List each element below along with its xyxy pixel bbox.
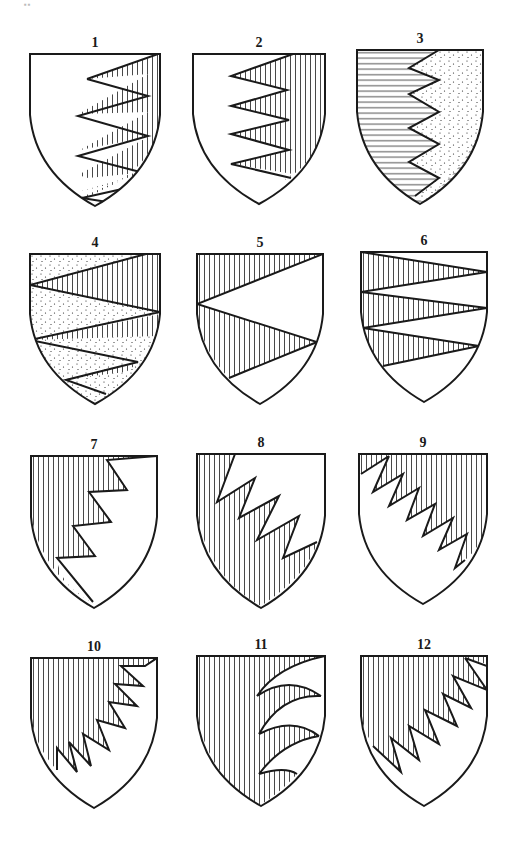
shield-11 <box>195 654 327 808</box>
shield-number-5: 5 <box>185 236 335 250</box>
shield-number-9: 9 <box>348 436 498 450</box>
shields-plate: 123456789101112 <box>0 0 514 846</box>
shield-number-8: 8 <box>186 436 336 450</box>
shield-number-10: 10 <box>19 640 169 654</box>
shield-number-2: 2 <box>184 36 334 50</box>
shield-number-3: 3 <box>345 32 495 46</box>
shield-6 <box>359 250 489 404</box>
shield-number-12: 12 <box>349 638 499 652</box>
shield-1 <box>28 52 162 208</box>
shield-4 <box>28 252 162 406</box>
shield-number-6: 6 <box>349 234 499 248</box>
shield-12 <box>359 654 489 808</box>
shield-number-7: 7 <box>19 438 169 452</box>
shield-8 <box>195 452 327 610</box>
shield-2 <box>191 52 327 206</box>
shield-number-1: 1 <box>20 36 170 50</box>
shield-3 <box>355 48 485 206</box>
shield-10 <box>29 656 159 810</box>
shield-9 <box>357 452 489 606</box>
shield-5 <box>195 252 325 406</box>
shield-7 <box>29 454 159 610</box>
shield-number-11: 11 <box>186 638 336 652</box>
shield-number-4: 4 <box>20 236 170 250</box>
